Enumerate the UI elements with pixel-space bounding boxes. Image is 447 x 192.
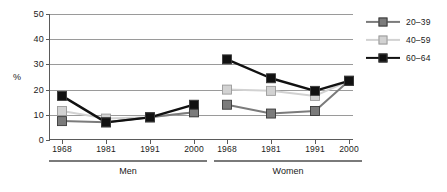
x-tick-label-Women-1968: 1968 — [217, 145, 237, 154]
y-tick-label-10: 10 — [34, 110, 44, 119]
data-point-20–39-Men-1968 — [58, 117, 67, 126]
x-axis-zone: 1968198119912000Men1968198119912000Women — [49, 140, 353, 192]
data-point-60–64-Men-1981 — [102, 118, 111, 127]
group-rule-Men — [49, 160, 207, 162]
x-tick-label-Men-1991: 1991 — [140, 145, 160, 154]
series-layer — [49, 14, 353, 140]
legend-swatch-icon — [366, 35, 400, 46]
group-label-women: Women — [273, 166, 304, 176]
legend-label: 60–64 — [406, 54, 431, 63]
chart-root: % 01020304050 1968198119912000Men1968198… — [0, 0, 447, 192]
legend-swatch-icon — [366, 17, 400, 28]
data-point-20–39-Women-1968 — [223, 100, 232, 109]
data-point-60–64-Women-2000 — [345, 76, 354, 85]
data-point-60–64-Women-1991 — [311, 86, 320, 95]
legend-item-1[interactable]: 40–59 — [366, 31, 447, 49]
y-tick-label-0: 0 — [39, 136, 44, 145]
x-tick-label-Women-2000: 2000 — [339, 145, 359, 154]
chart-legend: 20–3940–5960–64 — [366, 13, 447, 67]
legend-marker-icon — [379, 36, 388, 45]
data-point-40–59-Men-1968 — [58, 107, 67, 116]
y-axis-label: % — [13, 72, 21, 82]
y-tick-label-50: 50 — [34, 10, 44, 19]
data-point-20–39-Women-1991 — [311, 107, 320, 116]
data-point-60–64-Women-1968 — [223, 55, 232, 64]
x-tick-label-Men-1968: 1968 — [52, 145, 72, 154]
x-tick-label-Men-1981: 1981 — [96, 145, 116, 154]
x-tick-label-Women-1991: 1991 — [305, 145, 325, 154]
series-line-60–64-Women — [227, 59, 349, 91]
legend-marker-icon — [379, 54, 388, 63]
group-label-men: Men — [119, 166, 137, 176]
legend-item-2[interactable]: 60–64 — [366, 49, 447, 67]
y-tick-label-30: 30 — [34, 60, 44, 69]
data-point-20–39-Women-1981 — [267, 109, 276, 118]
x-tick-label-Women-1981: 1981 — [261, 145, 281, 154]
data-point-60–64-Men-1991 — [146, 113, 155, 122]
legend-item-0[interactable]: 20–39 — [366, 13, 447, 31]
legend-label: 40–59 — [406, 36, 431, 45]
data-point-40–59-Women-1968 — [223, 85, 232, 94]
x-tick-label-Men-2000: 2000 — [184, 145, 204, 154]
legend-swatch-icon — [366, 53, 400, 64]
y-tick-label-40: 40 — [34, 35, 44, 44]
legend-label: 20–39 — [406, 18, 431, 27]
group-rule-Women — [214, 160, 362, 162]
legend-marker-icon — [379, 18, 388, 27]
y-tick-label-20: 20 — [34, 85, 44, 94]
data-point-60–64-Men-2000 — [190, 100, 199, 109]
data-point-60–64-Women-1981 — [267, 74, 276, 83]
data-point-40–59-Women-1981 — [267, 86, 276, 95]
data-point-60–64-Men-1968 — [58, 91, 67, 100]
plot-area: 01020304050 — [49, 14, 353, 140]
